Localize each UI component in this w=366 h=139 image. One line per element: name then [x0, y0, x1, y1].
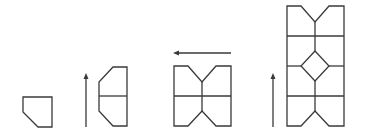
- tile-reflection-diagram: [0, 0, 366, 139]
- two-tile-column: [99, 67, 127, 126]
- center-diamond: [301, 51, 329, 81]
- eight-tile-column: [287, 6, 344, 126]
- arrow-left-icon: [173, 51, 231, 56]
- single-tile: [23, 97, 52, 127]
- arrow-up-icon: [271, 73, 276, 127]
- arrow-up-icon: [84, 73, 89, 127]
- four-tile-block: [174, 66, 231, 126]
